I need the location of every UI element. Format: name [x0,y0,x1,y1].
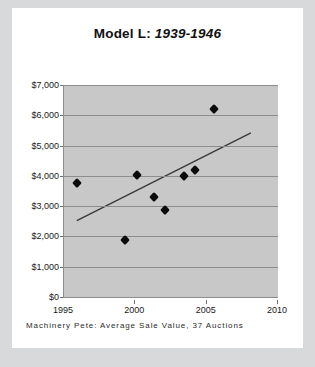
x-tick-mark [134,300,135,304]
gridline [64,267,278,268]
footer-divider [22,314,294,315]
gridline [64,85,278,86]
x-tick-mark [277,300,278,304]
gridline [64,146,278,147]
y-tick-label: $7,000 [13,80,59,90]
chart-title-years: 1939-1946 [155,26,221,41]
y-tick-label: $6,000 [13,110,59,120]
gridline [64,206,278,207]
trendline [64,85,278,297]
y-tick-label: $4,000 [13,171,59,181]
chart-title-model: Model L: [94,26,151,41]
y-tick-label: $5,000 [13,141,59,151]
x-tick-mark [206,300,207,304]
chart-card: Model L: 1939-1946 $0$1,000$2,000$3,000$… [12,8,303,348]
y-tick-label: $3,000 [13,201,59,211]
y-tick-label: $1,000 [13,262,59,272]
y-tick-label: $0 [13,292,59,302]
y-axis: $0$1,000$2,000$3,000$4,000$5,000$6,000$7… [12,85,59,297]
footer-note: Machinery Pete: Average Sale Value, 37 A… [26,321,296,330]
gridline [64,236,278,237]
chart-title: Model L: 1939-1946 [12,26,303,41]
gridline [64,176,278,177]
y-tick-label: $2,000 [13,231,59,241]
plot-area [63,85,278,298]
gridline [64,115,278,116]
